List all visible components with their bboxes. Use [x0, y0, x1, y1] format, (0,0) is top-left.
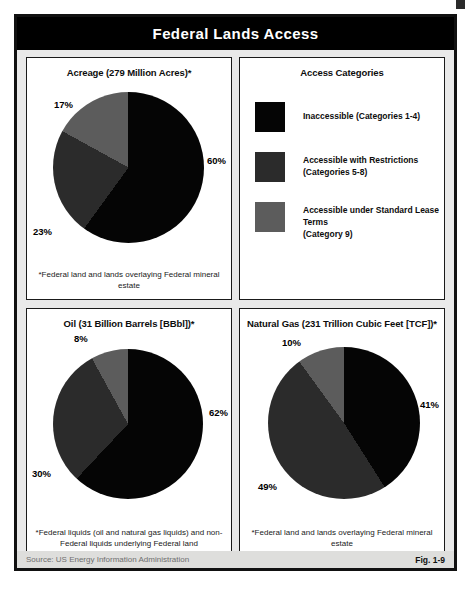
panel-acreage: Acreage (279 Million Acres)* 60% 23% 17%…	[26, 57, 232, 300]
gas-chart-title: Natural Gas (231 Trillion Cubic Feet [TC…	[240, 309, 444, 329]
legend-title: Access Categories	[240, 58, 444, 78]
oil-footnote: *Federal liquids (oil and natural gas li…	[27, 528, 231, 550]
figure-footer: Source: US Energy Information Administra…	[17, 551, 454, 568]
panel-natural-gas: Natural Gas (231 Trillion Cubic Feet [TC…	[239, 308, 445, 558]
gas-slice-label-standard: 10%	[282, 337, 301, 348]
oil-slice-label-inaccessible: 62%	[209, 407, 228, 418]
legend-label-restricted: Accessible with Restrictions (Categories…	[303, 152, 418, 179]
gas-slice-label-inaccessible: 41%	[420, 399, 439, 410]
gas-pie-wrap: 41% 49% 10%	[240, 329, 444, 514]
gas-pie-chart	[268, 347, 420, 499]
oil-pie-wrap: 62% 30% 8%	[27, 329, 231, 514]
figure-header: Federal Lands Access	[17, 17, 454, 50]
legend-item-restricted: Accessible with Restrictions (Categories…	[240, 152, 444, 182]
acreage-pie-chart	[53, 92, 204, 243]
panel-access-categories: Access Categories Inaccessible (Categori…	[239, 57, 445, 300]
legend-list: Inaccessible (Categories 1-4) Accessible…	[240, 102, 444, 261]
oil-slice-label-restricted: 30%	[32, 468, 51, 479]
page-corner-mark	[456, 0, 465, 9]
legend-swatch-inaccessible	[255, 102, 285, 132]
acreage-slice-label-inaccessible: 60%	[207, 155, 226, 166]
figure-frame: Federal Lands Access Acreage (279 Millio…	[14, 14, 457, 571]
legend-label-standard-lease: Accessible under Standard Lease Terms (C…	[303, 202, 444, 241]
legend-item-standard-lease: Accessible under Standard Lease Terms (C…	[240, 202, 444, 241]
oil-pie-chart	[53, 349, 203, 499]
source-caption: Source: US Energy Information Administra…	[26, 555, 189, 564]
figure-number: Fig. 1-9	[415, 555, 445, 565]
acreage-pie-wrap: 60% 23% 17%	[27, 78, 231, 263]
acreage-footnote: *Federal land and lands overlaying Feder…	[27, 270, 231, 292]
legend-label-inaccessible: Inaccessible (Categories 1-4)	[303, 102, 420, 123]
legend-swatch-standard-lease	[255, 202, 285, 232]
legend-swatch-restricted	[255, 152, 285, 182]
oil-slice-label-standard: 8%	[74, 333, 88, 344]
panel-oil: Oil (31 Billion Barrels [BBbl])* 62% 30%…	[26, 308, 232, 558]
figure-page: Federal Lands Access Acreage (279 Millio…	[0, 0, 471, 589]
oil-chart-title: Oil (31 Billion Barrels [BBbl])*	[27, 309, 231, 329]
acreage-slice-label-standard: 17%	[54, 99, 73, 110]
page-title: Federal Lands Access	[153, 25, 319, 42]
legend-item-inaccessible: Inaccessible (Categories 1-4)	[240, 102, 444, 132]
acreage-slice-label-restricted: 23%	[33, 226, 52, 237]
acreage-chart-title: Acreage (279 Million Acres)*	[27, 58, 231, 78]
gas-slice-label-restricted: 49%	[258, 481, 277, 492]
gas-footnote: *Federal land and lands overlaying Feder…	[240, 528, 444, 550]
